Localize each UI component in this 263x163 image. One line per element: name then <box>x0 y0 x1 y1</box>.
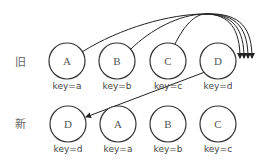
node-letter: B <box>113 55 120 67</box>
node-key: key=b <box>102 81 131 91</box>
node-letter: D <box>214 55 222 67</box>
node-letter: C <box>164 55 171 67</box>
node-key: key=a <box>53 81 82 91</box>
diagram-canvas: 旧 新 A key=a B key=b C key=c D key=d D ke… <box>0 0 263 163</box>
old-node-a: A key=a <box>49 43 85 91</box>
node-key: key=a <box>104 144 133 154</box>
new-node-c: C key=c <box>200 106 236 154</box>
new-node-d: D key=d <box>50 106 86 154</box>
row-label-new: 新 <box>15 117 26 131</box>
node-key: key=c <box>154 81 182 91</box>
edge-old-d-to-new-d <box>86 72 205 117</box>
node-key: key=c <box>204 144 232 154</box>
old-node-b: B key=b <box>99 43 135 91</box>
node-key: key=b <box>153 144 182 154</box>
node-key: key=d <box>53 144 82 154</box>
old-node-c: C key=c <box>150 43 186 91</box>
new-node-b: B key=b <box>150 106 186 154</box>
node-letter: A <box>114 118 122 130</box>
node-letter: C <box>214 118 221 130</box>
node-letter: B <box>164 118 171 130</box>
row-label-old: 旧 <box>15 56 26 69</box>
node-letter: D <box>64 118 72 130</box>
old-node-d: D key=d <box>200 43 236 91</box>
node-key: key=d <box>203 81 232 91</box>
new-node-a: A key=a <box>100 106 136 154</box>
node-letter: A <box>63 55 71 67</box>
